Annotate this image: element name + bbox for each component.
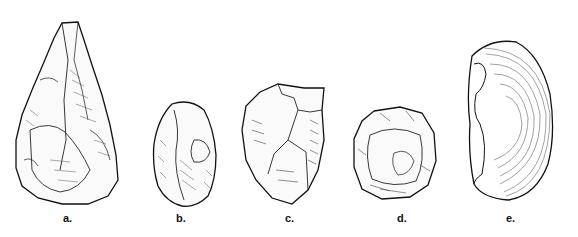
discoid-drawing-icon [350,105,440,201]
label-a: a. [63,212,72,224]
label-d: d. [397,212,407,224]
tool-d-discoidal-core [350,105,440,201]
tool-e-flake [460,34,560,204]
hand-axe-drawing-icon [10,20,125,206]
oval-biface-drawing-icon [150,100,220,210]
tool-a-hand-axe [10,20,125,206]
label-b: b. [176,212,186,224]
label-e: e. [506,212,515,224]
cleaver-drawing-icon [238,80,330,206]
stone-tools-figure: a. b. c. [0,0,578,237]
flake-drawing-icon [460,34,560,204]
tool-c-cleaver [238,80,330,206]
tool-b-oval-biface [150,100,220,210]
label-c: c. [285,212,294,224]
